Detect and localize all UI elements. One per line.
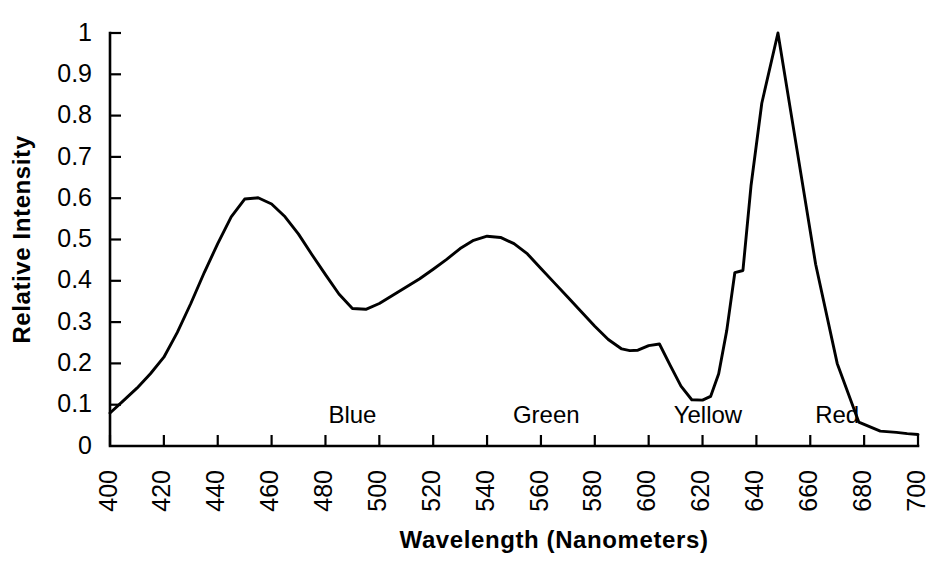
x-tick-label: 460 [255,470,283,512]
x-tick-label: 580 [578,470,606,512]
x-tick-label: 540 [471,470,499,512]
y-tick-label: 0 [78,431,92,459]
x-tick-label: 620 [686,470,714,512]
y-axis-tick-marks [110,33,121,405]
y-tick-label: 0.4 [57,265,92,293]
x-axis-title: Wavelength (Nanometers) [400,526,709,553]
spectrum-chart: 00.10.20.30.40.50.60.70.80.91 4004204404… [0,0,943,571]
x-tick-label: 640 [740,470,768,512]
y-axis-tick-labels: 00.10.20.30.40.50.60.70.80.91 [57,18,92,459]
x-tick-label: 420 [147,470,175,512]
x-tick-label: 400 [94,470,122,512]
band-label-green: Green [513,401,580,428]
x-tick-label: 480 [309,470,337,512]
x-tick-label: 660 [794,470,822,512]
x-axis-tick-labels: 4004204404604805005205405605806006206406… [94,470,930,512]
x-axis-tick-marks [110,435,918,446]
y-tick-label: 0.9 [57,59,92,87]
plot-axes [110,33,918,446]
x-tick-label: 700 [902,470,930,512]
y-tick-label: 0.5 [57,224,92,252]
y-tick-label: 0.8 [57,100,92,128]
y-axis-title: Relative Intensity [8,135,35,343]
x-tick-label: 520 [417,470,445,512]
band-label-blue: Blue [328,401,376,428]
color-band-labels: BlueGreenYellowRed [328,401,859,428]
y-tick-label: 0.7 [57,142,92,170]
chart-canvas: 00.10.20.30.40.50.60.70.80.91 4004204404… [0,0,943,571]
y-tick-label: 0.1 [57,389,92,417]
x-tick-label: 560 [525,470,553,512]
x-tick-label: 440 [201,470,229,512]
band-label-red: Red [815,401,859,428]
y-tick-label: 0.3 [57,307,92,335]
y-tick-label: 0.6 [57,183,92,211]
x-tick-label: 600 [632,470,660,512]
y-tick-label: 1 [78,18,92,46]
band-label-yellow: Yellow [674,401,743,428]
x-tick-label: 500 [363,470,391,512]
y-tick-label: 0.2 [57,348,92,376]
x-tick-label: 680 [848,470,876,512]
intensity-curve [110,33,918,434]
